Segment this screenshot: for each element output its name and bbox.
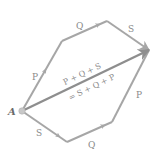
origin-label: A bbox=[7, 106, 16, 117]
vector-p-bottom bbox=[112, 50, 149, 122]
label-s-bottom: S bbox=[36, 128, 42, 138]
vector-q-top bbox=[62, 21, 107, 41]
label-q-bottom: Q bbox=[88, 140, 95, 150]
label-s-top: S bbox=[128, 24, 134, 34]
vector-addition-diagram: A P Q S S Q P P + Q + S = S + Q + P bbox=[0, 0, 158, 154]
vector-q-bottom bbox=[67, 122, 112, 142]
resultant-vector bbox=[22, 50, 149, 111]
label-q-top: Q bbox=[76, 21, 83, 31]
vector-s-bottom bbox=[22, 111, 67, 142]
origin-point bbox=[19, 108, 25, 114]
top-path bbox=[22, 21, 149, 111]
label-p-top: P bbox=[32, 72, 38, 82]
label-p-bottom: P bbox=[136, 90, 142, 100]
